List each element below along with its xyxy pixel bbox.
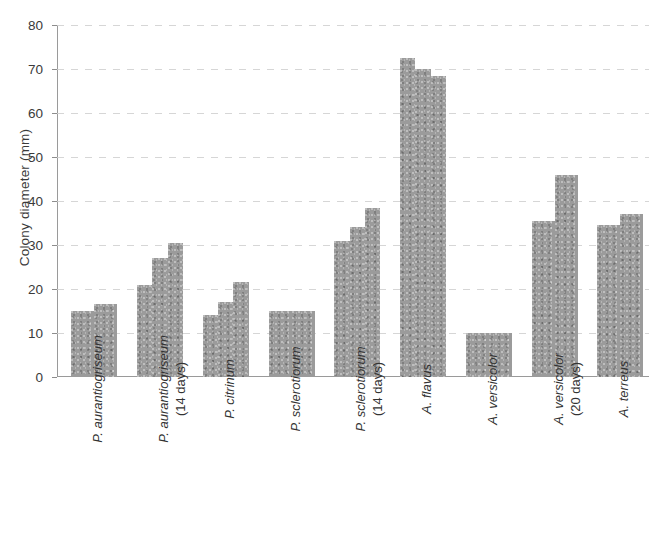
bar[interactable] bbox=[466, 25, 489, 377]
x-category-label: A. flavus bbox=[386, 377, 452, 555]
bar[interactable] bbox=[203, 25, 218, 377]
y-tick-label: 50 bbox=[28, 150, 43, 165]
bar[interactable] bbox=[233, 25, 248, 377]
x-axis-category-labels: P. aurantiogriseumP. aurantiogriseum(14 … bbox=[57, 377, 649, 555]
y-tick-label: 0 bbox=[35, 370, 43, 385]
x-category-label: A. versicolor bbox=[452, 377, 518, 555]
bar-fill bbox=[620, 214, 643, 377]
bar-fill bbox=[137, 285, 152, 377]
bar[interactable] bbox=[365, 25, 380, 377]
bar-fill bbox=[203, 315, 218, 377]
y-tick-mark: 50 bbox=[52, 157, 57, 158]
x-category-label: A. versicolor(20 days) bbox=[517, 377, 583, 555]
bar-fill bbox=[415, 69, 430, 377]
bar[interactable] bbox=[137, 25, 152, 377]
y-tick-mark: 40 bbox=[52, 201, 57, 202]
x-category-label-text: A. terreus bbox=[616, 361, 633, 417]
x-category-label-text: A. versicolor bbox=[485, 353, 502, 425]
bar-group[interactable] bbox=[400, 25, 446, 377]
x-category-label: P. sclerotiorum bbox=[254, 377, 320, 555]
x-category-label: A. terreus bbox=[583, 377, 649, 555]
y-tick-mark: 70 bbox=[52, 69, 57, 70]
bar-fill bbox=[400, 58, 415, 377]
y-tick-mark: 30 bbox=[52, 245, 57, 246]
plot-area: 01020304050607080 bbox=[57, 25, 649, 377]
bar-group[interactable] bbox=[71, 25, 117, 377]
x-category-label-text: P. sclerotiorum(14 days) bbox=[353, 346, 386, 431]
x-category-label-text: P. aurantiogriseum(14 days) bbox=[156, 335, 189, 442]
bar-group[interactable] bbox=[203, 25, 249, 377]
bar-group[interactable] bbox=[597, 25, 643, 377]
bar[interactable] bbox=[152, 25, 167, 377]
bar[interactable] bbox=[350, 25, 365, 377]
y-tick-label: 20 bbox=[28, 282, 43, 297]
bar[interactable] bbox=[555, 25, 578, 377]
bar-fill bbox=[555, 175, 578, 377]
bar[interactable] bbox=[415, 25, 430, 377]
y-tick-label: 10 bbox=[28, 326, 43, 341]
x-category-label-text: P. citrinum bbox=[221, 359, 238, 419]
y-tick-label: 70 bbox=[28, 62, 43, 77]
x-category-label-subtext: (14 days) bbox=[172, 335, 189, 442]
bar[interactable] bbox=[292, 25, 315, 377]
x-category-label: P. aurantiogriseum bbox=[57, 377, 123, 555]
y-tick-label: 60 bbox=[28, 106, 43, 121]
bar[interactable] bbox=[269, 25, 292, 377]
bar[interactable] bbox=[218, 25, 233, 377]
x-category-label-subtext: (20 days) bbox=[567, 353, 584, 425]
y-tick-mark: 10 bbox=[52, 333, 57, 334]
x-category-label-text: A. flavus bbox=[419, 364, 436, 414]
bar[interactable] bbox=[597, 25, 620, 377]
bar[interactable] bbox=[620, 25, 643, 377]
bar-group[interactable] bbox=[334, 25, 380, 377]
bar[interactable] bbox=[71, 25, 94, 377]
bar[interactable] bbox=[400, 25, 415, 377]
x-category-label-text: P. aurantiogriseum bbox=[90, 335, 107, 442]
x-category-label-text: P. sclerotiorum bbox=[287, 346, 304, 431]
bar-group[interactable] bbox=[466, 25, 512, 377]
x-category-label: P. citrinum bbox=[189, 377, 255, 555]
y-tick-label: 30 bbox=[28, 238, 43, 253]
y-tick-mark: 20 bbox=[52, 289, 57, 290]
bar-fill bbox=[597, 225, 620, 377]
x-category-label-subtext: (14 days) bbox=[370, 346, 387, 431]
bar[interactable] bbox=[334, 25, 349, 377]
bar[interactable] bbox=[489, 25, 512, 377]
bar[interactable] bbox=[532, 25, 555, 377]
bar[interactable] bbox=[431, 25, 446, 377]
bar-group[interactable] bbox=[532, 25, 578, 377]
y-tick-mark: 80 bbox=[52, 25, 57, 26]
bar-fill bbox=[334, 241, 349, 377]
colony-diameter-bar-chart: Colony diameter (mm) 01020304050607080 P… bbox=[0, 0, 655, 555]
x-category-label-text: A. versicolor(20 days) bbox=[550, 353, 583, 425]
y-tick-mark: 60 bbox=[52, 113, 57, 114]
x-category-label: P. aurantiogriseum(14 days) bbox=[123, 377, 189, 555]
bar[interactable] bbox=[94, 25, 117, 377]
bar-group[interactable] bbox=[137, 25, 183, 377]
y-tick-label: 40 bbox=[28, 194, 43, 209]
bar-group[interactable] bbox=[269, 25, 315, 377]
bar-fill bbox=[431, 76, 446, 377]
x-category-label: P. sclerotiorum(14 days) bbox=[320, 377, 386, 555]
bar[interactable] bbox=[168, 25, 183, 377]
y-tick-label: 80 bbox=[28, 18, 43, 33]
